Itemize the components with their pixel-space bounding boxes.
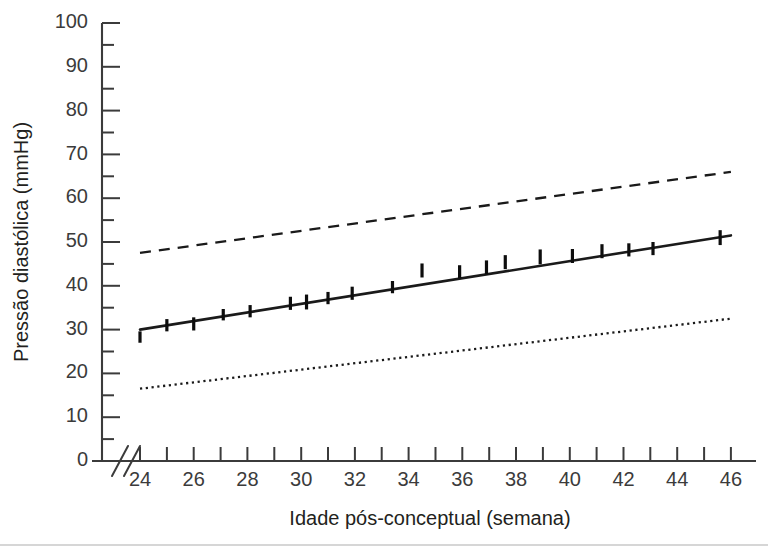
- x-ticks: [140, 447, 731, 461]
- x-tick-label-38: 38: [505, 468, 527, 490]
- diastolic-pressure-chart: 100 90 80 70 60 50 40 30 20 10 0 Pressão…: [0, 0, 768, 549]
- y-tick-label-30: 30: [66, 317, 88, 339]
- series-line-solid: [140, 235, 731, 329]
- y-tick-label-10: 10: [66, 404, 88, 426]
- x-axis: 24 26 28 30 32 34 36 38 40 42 44 46 Idad…: [102, 446, 756, 529]
- x-tick-label-40: 40: [559, 468, 581, 490]
- x-tick-label-24: 24: [129, 468, 151, 490]
- x-tick-label-36: 36: [451, 468, 473, 490]
- x-tick-label-46: 46: [720, 468, 742, 490]
- x-tick-label-44: 44: [666, 468, 688, 490]
- y-tick-label-70: 70: [66, 142, 88, 164]
- y-axis: 100 90 80 70 60 50 40 30 20 10 0 Pressão…: [10, 10, 120, 470]
- figure-container: 100 90 80 70 60 50 40 30 20 10 0 Pressão…: [0, 0, 768, 549]
- y-tick-label-0: 0: [77, 448, 88, 470]
- y-tick-label-90: 90: [66, 54, 88, 76]
- marker-layer: [140, 230, 720, 343]
- y-tick-label-60: 60: [66, 185, 88, 207]
- x-tick-label-34: 34: [397, 468, 419, 490]
- y-axis-title: Pressão diastólica (mmHg): [10, 122, 32, 362]
- series-line-dotted: [140, 319, 731, 389]
- y-tick-label-100: 100: [55, 10, 88, 32]
- x-tick-label-28: 28: [236, 468, 258, 490]
- x-axis-title: Idade pós-conceptual (semana): [289, 507, 570, 529]
- x-tick-label-30: 30: [290, 468, 312, 490]
- y-tick-label-20: 20: [66, 360, 88, 382]
- x-tick-label-42: 42: [612, 468, 634, 490]
- series-line-dashed: [140, 172, 731, 253]
- y-tick-label-80: 80: [66, 98, 88, 120]
- x-tick-label-32: 32: [344, 468, 366, 490]
- x-tick-label-26: 26: [183, 468, 205, 490]
- series-layer: [140, 172, 731, 389]
- y-tick-label-40: 40: [66, 273, 88, 295]
- y-tick-label-50: 50: [66, 229, 88, 251]
